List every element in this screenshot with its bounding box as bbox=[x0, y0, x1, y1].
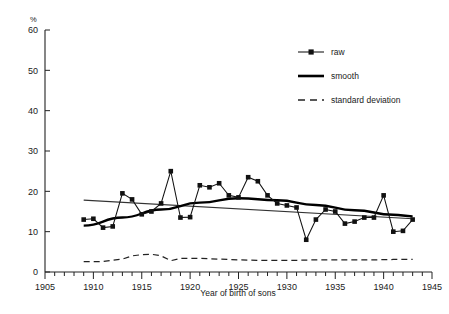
raw-data-point bbox=[168, 169, 173, 174]
raw-data-point bbox=[101, 225, 106, 230]
raw-data-point bbox=[265, 193, 270, 198]
raw-data-point bbox=[110, 224, 115, 229]
x-axis-title: Year of birth of sons bbox=[200, 288, 275, 298]
y-axis-tick-label: 50 bbox=[28, 66, 38, 76]
x-axis-tick-label: 1905 bbox=[35, 282, 55, 292]
y-axis-tick-label: 30 bbox=[28, 146, 38, 156]
y-axis-unit-label: % bbox=[30, 15, 37, 24]
raw-data-point bbox=[188, 215, 193, 220]
raw-data-point bbox=[410, 217, 415, 222]
raw-data-point bbox=[227, 193, 232, 198]
legend-label-raw: raw bbox=[331, 47, 346, 57]
legend-label-standard-deviation: standard deviation bbox=[331, 95, 401, 105]
y-axis-tick-label: 20 bbox=[28, 187, 38, 197]
raw-data-point bbox=[381, 193, 386, 198]
y-axis-tick-label: 10 bbox=[28, 227, 38, 237]
raw-data-point bbox=[314, 217, 319, 222]
y-axis-tick-label: 60 bbox=[28, 25, 38, 35]
chart-background bbox=[0, 0, 449, 314]
x-axis-tick-label: 1945 bbox=[422, 282, 442, 292]
x-axis-tick-label: 1930 bbox=[277, 282, 297, 292]
x-axis-tick-label: 1935 bbox=[325, 282, 345, 292]
raw-data-point bbox=[207, 185, 212, 190]
raw-data-point bbox=[391, 229, 396, 234]
chart-figure: 0102030405060 19051910191519201925193019… bbox=[0, 0, 449, 314]
raw-data-point bbox=[343, 221, 348, 226]
raw-data-point bbox=[256, 179, 261, 184]
x-axis-tick-label: 1940 bbox=[374, 282, 394, 292]
raw-data-point bbox=[323, 207, 328, 212]
raw-data-point bbox=[178, 215, 183, 220]
raw-data-point bbox=[372, 215, 377, 220]
raw-data-point bbox=[285, 203, 290, 208]
y-axis-tick-label: 0 bbox=[33, 267, 38, 277]
raw-data-point bbox=[217, 181, 222, 186]
raw-data-point bbox=[275, 201, 280, 206]
x-axis-tick-label: 1920 bbox=[180, 282, 200, 292]
raw-data-point bbox=[294, 205, 299, 210]
raw-data-point bbox=[352, 219, 357, 224]
raw-data-point bbox=[149, 209, 154, 214]
y-axis-tick-label: 40 bbox=[28, 106, 38, 116]
x-axis-tick-label: 1915 bbox=[132, 282, 152, 292]
raw-data-point bbox=[236, 195, 241, 200]
raw-data-point bbox=[362, 215, 367, 220]
legend-label-smooth: smooth bbox=[331, 71, 359, 81]
x-axis-tick-label: 1910 bbox=[83, 282, 103, 292]
raw-data-point bbox=[198, 183, 203, 188]
raw-data-point bbox=[159, 201, 164, 206]
raw-data-point bbox=[81, 217, 86, 222]
raw-data-point bbox=[333, 209, 338, 214]
line-chart: 0102030405060 19051910191519201925193019… bbox=[0, 0, 449, 314]
raw-data-point bbox=[304, 237, 309, 242]
raw-data-point bbox=[401, 229, 406, 234]
raw-data-point bbox=[91, 216, 96, 221]
raw-data-point bbox=[120, 191, 125, 196]
legend-swatch-raw-marker bbox=[309, 49, 314, 54]
raw-data-point bbox=[130, 197, 135, 202]
raw-data-point bbox=[246, 175, 251, 180]
raw-data-point bbox=[139, 212, 144, 217]
